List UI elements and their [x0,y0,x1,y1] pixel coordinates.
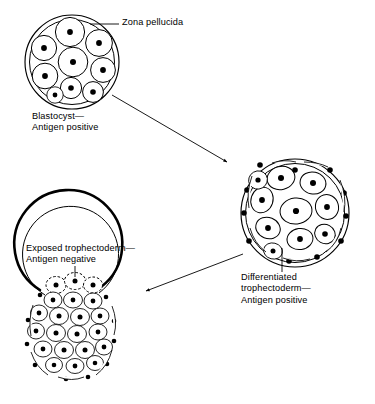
diagram-canvas: Zona pellucida Blastocyst— Antigen posit… [0,0,375,404]
arrow-stage2-to-stage3 [146,254,243,291]
arrow-stage1-to-stage2 [112,95,227,162]
stage-2-differentiated-trophectoderm [241,159,349,272]
stage-3-exposed-trophectoderm [14,190,122,381]
label-differentiated-trophectoderm: Differentiated trophectoderm— Antigen po… [241,272,311,306]
label-zona-pellucida: Zona pellucida [122,17,183,28]
label-exposed-trophectoderm: Exposed trophectoderm— Antigen negative [26,243,135,266]
label-blastocyst: Blastocyst— Antigen positive [32,111,98,134]
embryo-diagram-svg [0,0,375,404]
blastomere-group-stage3 [28,292,113,374]
stage-1-blastocyst [25,15,119,109]
